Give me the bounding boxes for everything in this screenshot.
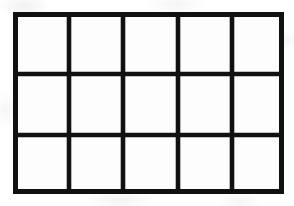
table-cell[interactable] xyxy=(126,77,176,133)
table-cell[interactable] xyxy=(72,77,121,133)
table-cell[interactable] xyxy=(126,138,176,190)
table-cell[interactable] xyxy=(126,17,176,72)
table-cell[interactable] xyxy=(18,17,67,72)
table-cell[interactable] xyxy=(18,138,67,190)
page-canvas xyxy=(0,0,294,206)
table-cell[interactable] xyxy=(181,138,230,190)
table-cell[interactable] xyxy=(235,77,280,133)
table-cell[interactable] xyxy=(181,77,230,133)
grid-cells xyxy=(18,17,279,189)
grid-table xyxy=(13,12,284,194)
table-cell[interactable] xyxy=(72,17,121,72)
table-cell[interactable] xyxy=(235,17,280,72)
grid-svg xyxy=(13,12,284,194)
table-cell[interactable] xyxy=(72,138,121,190)
table-cell[interactable] xyxy=(235,138,280,190)
table-cell[interactable] xyxy=(181,17,230,72)
table-cell[interactable] xyxy=(18,77,67,133)
